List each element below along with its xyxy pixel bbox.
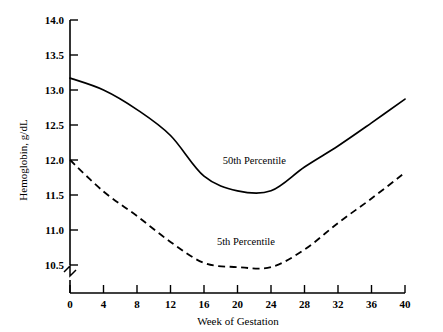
x-axis-title: Week of Gestation	[197, 315, 279, 327]
chart-canvas: 14.0 13.5 13.0 12.5 12.0 11.5 11.0 10.5 …	[0, 0, 443, 332]
ytick-label-13-0: 13.0	[45, 84, 65, 96]
hemoglobin-gestation-chart: 14.0 13.5 13.0 12.5 12.0 11.5 11.0 10.5 …	[0, 0, 443, 332]
ytick-label-12-5: 12.5	[45, 119, 65, 131]
xtick-label-4: 4	[101, 298, 107, 310]
y-tick-marks	[70, 20, 78, 265]
xtick-label-36: 36	[366, 298, 378, 310]
axis-break-icon	[64, 266, 76, 276]
xtick-label-32: 32	[333, 298, 345, 310]
xtick-label-40: 40	[400, 298, 412, 310]
series-line-50th-percentile	[70, 78, 405, 193]
ytick-label-13-5: 13.5	[45, 49, 65, 61]
xtick-label-8: 8	[134, 298, 140, 310]
xtick-label-12: 12	[165, 298, 177, 310]
ytick-label-14-0: 14.0	[45, 14, 65, 26]
x-tick-marks	[70, 285, 405, 293]
series-label-50th-percentile: 50th Percentile	[223, 155, 287, 166]
xtick-label-28: 28	[299, 298, 311, 310]
xtick-label-20: 20	[232, 298, 244, 310]
series-line-5th-percentile	[70, 160, 405, 269]
xtick-label-24: 24	[266, 298, 278, 310]
series-label-5th-percentile: 5th Percentile	[217, 236, 275, 247]
ytick-label-10-5: 10.5	[45, 259, 65, 271]
ytick-label-12-0: 12.0	[45, 154, 65, 166]
ytick-label-11-0: 11.0	[45, 224, 64, 236]
xtick-label-0: 0	[67, 298, 73, 310]
ytick-label-11-5: 11.5	[45, 189, 64, 201]
xtick-label-16: 16	[199, 298, 211, 310]
y-axis-title: Hemoglobin, g/dL	[17, 119, 29, 201]
